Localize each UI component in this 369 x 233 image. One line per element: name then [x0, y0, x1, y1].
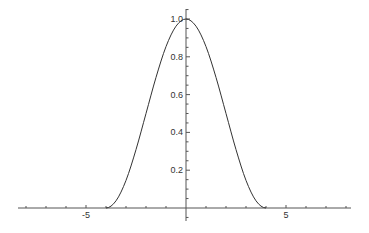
y-tick-label: 0.2	[170, 165, 183, 175]
y-tick-label: 0.8	[170, 52, 183, 62]
y-tick-label: 1.0	[170, 14, 183, 24]
y-axis-ticks	[186, 10, 190, 218]
x-tick-label: 5	[283, 210, 288, 220]
y-tick-labels: 0.20.40.60.81.0	[170, 14, 183, 175]
axes	[18, 9, 351, 221]
chart-plot: -55 0.20.40.60.81.0	[0, 0, 369, 233]
x-tick-label: -5	[82, 210, 90, 220]
y-tick-label: 0.4	[170, 127, 183, 137]
x-tick-labels: -55	[82, 210, 289, 220]
y-tick-label: 0.6	[170, 90, 183, 100]
